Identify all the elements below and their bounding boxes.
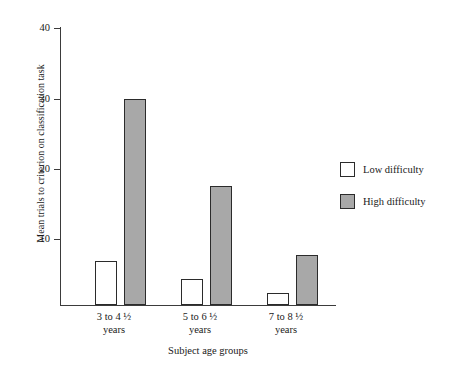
- bar-low-difficulty-group-2: [181, 279, 203, 305]
- x-axis-line: [60, 305, 336, 306]
- x-axis-title: Subject age groups: [118, 345, 298, 356]
- legend-label-high-difficulty: High difficulty: [363, 196, 426, 208]
- x-group-label-1: 3 to 4 ½ years: [66, 310, 162, 336]
- legend-swatch-high-difficulty: [340, 194, 355, 209]
- x-group-label-3: 7 to 8 ½ years: [238, 310, 334, 336]
- bar-low-difficulty-group-1: [95, 261, 117, 305]
- x-group-label-1-line2: years: [66, 323, 162, 336]
- y-tick-mark-10: [54, 239, 61, 240]
- y-axis-title: Mean trials to criterion on classificati…: [35, 34, 46, 274]
- bar-chart-figure: 40 30 20 10 Mean trials to criterion on …: [0, 0, 454, 372]
- x-group-label-2-line1: 5 to 6 ½: [183, 311, 217, 322]
- y-tick-mark-40: [54, 28, 61, 29]
- x-group-label-2: 5 to 6 ½ years: [152, 310, 248, 336]
- x-group-label-2-line2: years: [152, 323, 248, 336]
- bar-high-difficulty-group-2: [210, 186, 232, 305]
- x-group-label-1-line1: 3 to 4 ½: [97, 311, 131, 322]
- legend-swatch-low-difficulty: [340, 162, 355, 177]
- x-group-label-3-line2: years: [238, 323, 334, 336]
- bar-low-difficulty-group-3: [267, 293, 289, 305]
- x-group-label-3-line1: 7 to 8 ½: [269, 311, 303, 322]
- y-tick-mark-30: [54, 99, 61, 100]
- legend-item-high-difficulty: High difficulty: [340, 194, 454, 209]
- y-tick-mark-20: [54, 169, 61, 170]
- chart-legend: Low difficulty High difficulty: [340, 162, 454, 226]
- y-axis-line: [60, 27, 61, 306]
- bar-high-difficulty-group-3: [296, 255, 318, 305]
- legend-item-low-difficulty: Low difficulty: [340, 162, 454, 177]
- y-tick-label-40: 40: [20, 23, 50, 33]
- legend-label-low-difficulty: Low difficulty: [363, 164, 424, 176]
- bar-high-difficulty-group-1: [124, 99, 146, 306]
